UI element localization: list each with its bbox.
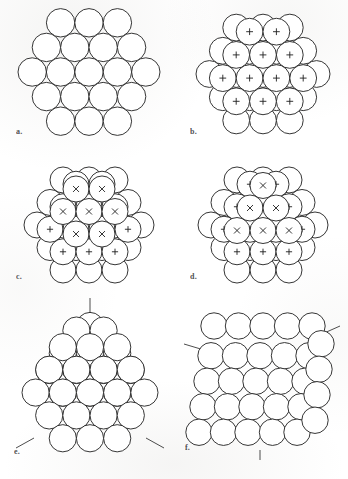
sphere-layer-a bbox=[117, 33, 145, 61]
sphere-side-face bbox=[302, 407, 328, 433]
panel-b-label: b. bbox=[190, 127, 197, 136]
sphere-face-row-2 bbox=[267, 368, 293, 394]
panel-e bbox=[10, 296, 170, 461]
sphere-layer-a bbox=[103, 58, 131, 86]
axis-line-lower-right bbox=[146, 438, 164, 448]
sphere-rear-row bbox=[225, 313, 251, 339]
panel-f-label: f. bbox=[185, 443, 190, 452]
sphere-side-face bbox=[308, 331, 334, 357]
sphere-tier-4 bbox=[104, 425, 131, 452]
sphere-layer-a bbox=[61, 33, 89, 61]
sphere-face-row-1 bbox=[198, 343, 224, 369]
figure-page: a. b. c. d. bbox=[0, 0, 348, 479]
sphere-face-row-2 bbox=[218, 368, 244, 394]
panel-a bbox=[14, 8, 164, 138]
sphere-layer-a bbox=[117, 82, 145, 110]
sphere-face-row-2 bbox=[243, 368, 269, 394]
sphere-face-row-3 bbox=[263, 394, 289, 420]
sphere-face-row-4 bbox=[210, 419, 236, 445]
sphere-face-row-1 bbox=[222, 343, 248, 369]
sphere-layer-a bbox=[89, 33, 117, 61]
panel-d bbox=[188, 155, 338, 285]
panel-d-label: d. bbox=[190, 272, 197, 281]
panel-e-diagram bbox=[10, 296, 170, 461]
sphere-face-row-4 bbox=[235, 419, 261, 445]
sphere-face-row-3 bbox=[239, 394, 265, 420]
panel-d-diagram bbox=[188, 155, 338, 285]
panel-b-diagram bbox=[188, 8, 338, 138]
sphere-tier-4 bbox=[76, 425, 103, 452]
panel-c bbox=[14, 155, 164, 285]
sphere-rear-row bbox=[201, 313, 227, 339]
sphere-layer-a bbox=[75, 58, 103, 86]
panel-f-diagram bbox=[182, 300, 344, 460]
sphere-layer-a bbox=[75, 9, 103, 37]
panel-a-label: a. bbox=[16, 127, 22, 136]
sphere-face-row-1 bbox=[271, 343, 297, 369]
panel-f bbox=[182, 300, 344, 460]
sphere-rear-row bbox=[274, 313, 300, 339]
sphere-face-row-3 bbox=[214, 394, 240, 420]
sphere-tier-4 bbox=[49, 425, 76, 452]
panel-b bbox=[188, 8, 338, 138]
sphere-layer-a bbox=[103, 107, 131, 135]
sphere-face-row-4 bbox=[186, 419, 212, 445]
sphere-layer-a bbox=[32, 82, 60, 110]
panel-c-label: c. bbox=[16, 272, 22, 281]
sphere-layer-a bbox=[132, 58, 160, 86]
sphere-face-row-1 bbox=[247, 343, 273, 369]
sphere-face-row-4 bbox=[259, 419, 285, 445]
panel-c-diagram bbox=[14, 155, 164, 285]
sphere-face-row-2 bbox=[194, 368, 220, 394]
sphere-side-face bbox=[306, 356, 332, 382]
sphere-layer-a bbox=[46, 58, 74, 86]
sphere-layer-a bbox=[89, 82, 117, 110]
sphere-face-row-3 bbox=[190, 394, 216, 420]
panel-e-label: e. bbox=[14, 447, 20, 456]
panel-a-diagram bbox=[14, 8, 164, 138]
sphere-side-face bbox=[304, 382, 330, 408]
sphere-layer-a bbox=[46, 107, 74, 135]
sphere-layer-a bbox=[46, 9, 74, 37]
sphere-rear-row bbox=[250, 313, 276, 339]
sphere-layer-a bbox=[61, 82, 89, 110]
sphere-layer-a bbox=[103, 9, 131, 37]
sphere-layer-a bbox=[32, 33, 60, 61]
sphere-layer-a bbox=[75, 107, 103, 135]
sphere-layer-a bbox=[18, 58, 46, 86]
